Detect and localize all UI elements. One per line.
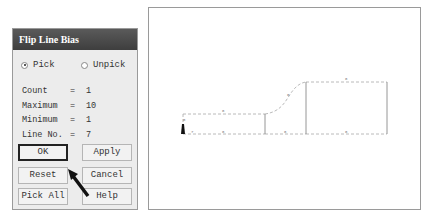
geometry-drawing: 8 8 8 8 8 8 8 7 — [149, 8, 422, 211]
svg-text:8: 8 — [183, 118, 186, 122]
svg-text:8: 8 — [345, 77, 348, 81]
bias-arrow-icon — [181, 124, 185, 134]
graphics-viewport[interactable]: 8 8 8 8 8 8 8 7 — [148, 7, 421, 210]
svg-text:8: 8 — [222, 109, 225, 113]
svg-text:8: 8 — [345, 130, 348, 134]
svg-text:8: 8 — [284, 130, 287, 134]
svg-text:7: 7 — [191, 130, 194, 134]
svg-text:8: 8 — [222, 130, 225, 134]
